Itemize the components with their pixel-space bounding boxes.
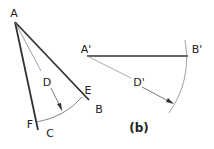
label-A-prime: A' (81, 43, 92, 56)
right-figure: A' B' D' (b) (81, 40, 203, 135)
label-E: E (85, 84, 92, 97)
arrowhead-D (57, 103, 62, 111)
geometry-figure: A D E B F C A' B' D' (b) (0, 0, 214, 149)
label-D: D (43, 76, 51, 89)
arc-FE (37, 97, 82, 122)
line-AC (15, 22, 38, 130)
label-B: B (95, 103, 103, 116)
arrowhead-D-prime (166, 98, 174, 104)
label-A: A (10, 7, 18, 20)
left-figure: A D E B F C (10, 7, 103, 140)
label-F: F (27, 118, 33, 131)
label-B-prime: B' (192, 43, 203, 56)
radius-line-D-prime (87, 56, 131, 78)
caption-b: (b) (129, 121, 149, 135)
label-D-prime: D' (133, 76, 145, 89)
line-AB (15, 22, 89, 100)
label-C: C (46, 127, 54, 140)
